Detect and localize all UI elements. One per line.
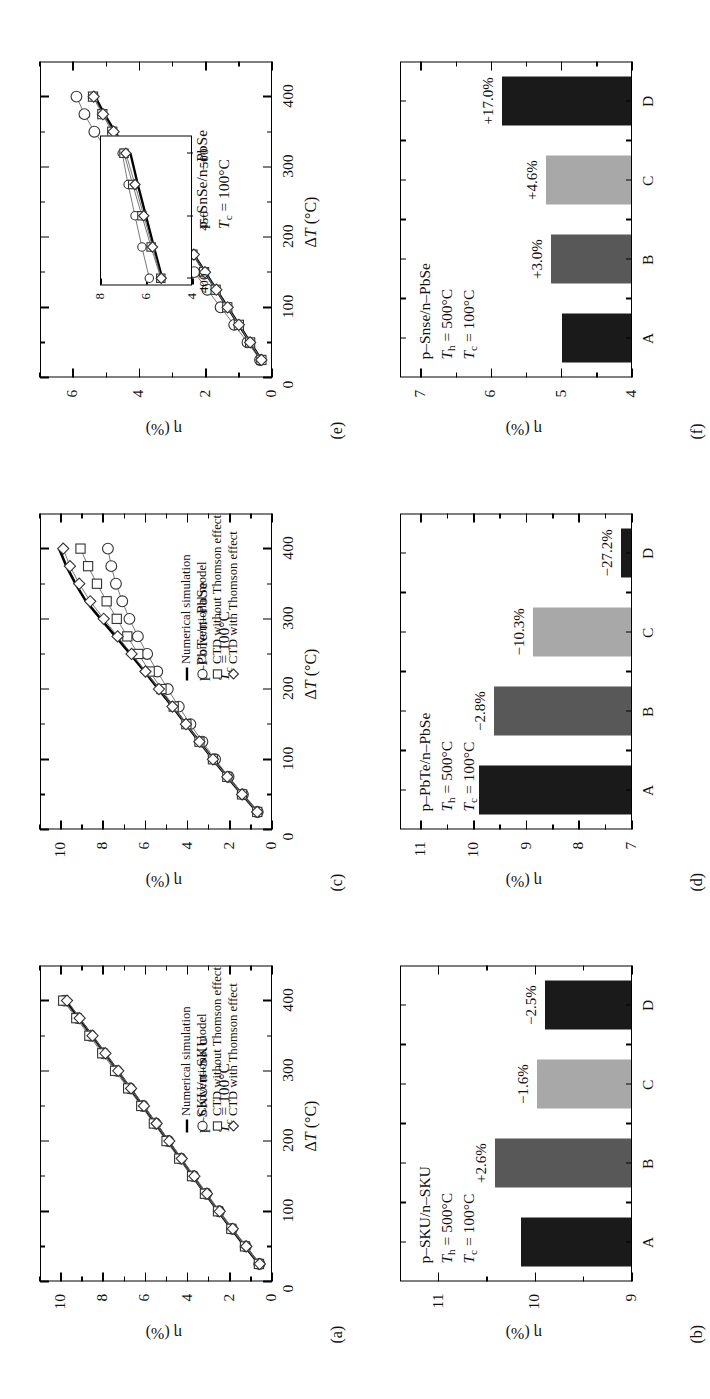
- x-tick-minor: [626, 297, 632, 298]
- bar-value-label: +17.0%: [480, 77, 497, 124]
- bar-A: [562, 313, 631, 362]
- x-tick-minor-top: [400, 218, 406, 219]
- bar-category-label: B: [639, 254, 657, 264]
- x-tick-minor-top: [400, 100, 406, 101]
- panel-caption-material-f: p–Snse/n–PbSe: [416, 263, 434, 359]
- y-tick-major-right: [420, 61, 422, 70]
- figure-rotation-wrapper: 01002003004000246810ΔT (°C)η (%)(a)p–SKU…: [0, 0, 710, 1399]
- x-tick-minor-top: [400, 297, 406, 298]
- y-tick-major-right: [561, 61, 563, 70]
- y-tick-minor-right: [456, 61, 457, 66]
- y-tick-minor: [596, 372, 597, 377]
- bar-D: [502, 76, 631, 125]
- y-tick-major-right: [631, 61, 633, 70]
- y-tick-label: 5: [552, 389, 570, 397]
- y-tick-major: [491, 368, 493, 377]
- bar-value-label: +4.6%: [524, 160, 541, 200]
- bar-category-label: D: [639, 95, 657, 106]
- x-tick-minor: [626, 179, 632, 180]
- x-tick-minor: [626, 139, 632, 140]
- y-tick-major: [420, 368, 422, 377]
- x-tick-minor-top: [400, 139, 406, 140]
- x-tick-minor: [626, 258, 632, 259]
- y-tick-minor-right: [526, 61, 527, 66]
- y-tick-major-right: [491, 61, 493, 70]
- panel-caption-tc-f: Tc = 100°C: [460, 289, 479, 359]
- panel-label-f: (f): [688, 423, 706, 439]
- bar-category-label: C: [639, 175, 657, 185]
- y-tick-label: 4: [622, 389, 640, 397]
- x-tick-minor: [626, 100, 632, 101]
- y-tick-minor-right: [596, 61, 597, 66]
- y-tick-major: [561, 368, 563, 377]
- bar-C: [546, 155, 631, 204]
- y-axis-label: η (%): [506, 419, 542, 437]
- y-tick-label: 6: [481, 389, 499, 397]
- bar-value-label: +3.0%: [529, 239, 546, 279]
- panel-caption-th-f: Th = 500°C: [438, 289, 457, 359]
- y-tick-minor: [456, 372, 457, 377]
- y-tick-major: [631, 368, 633, 377]
- x-tick-minor-top: [400, 258, 406, 259]
- x-tick-minor-top: [400, 179, 406, 180]
- y-tick-label: 7: [411, 389, 429, 397]
- x-tick-minor: [626, 218, 632, 219]
- figure-canvas: 01002003004000246810ΔT (°C)η (%)(a)p–SKU…: [0, 0, 710, 1399]
- bar-category-label: A: [639, 332, 657, 343]
- x-tick-minor-top: [400, 337, 406, 338]
- panel-f: 4567η (%)(f)p–Snse/n–PbSeTh = 500°CTc = …: [0, 0, 710, 1399]
- y-tick-minor: [526, 372, 527, 377]
- x-tick-minor: [626, 337, 632, 338]
- bar-B: [551, 234, 631, 283]
